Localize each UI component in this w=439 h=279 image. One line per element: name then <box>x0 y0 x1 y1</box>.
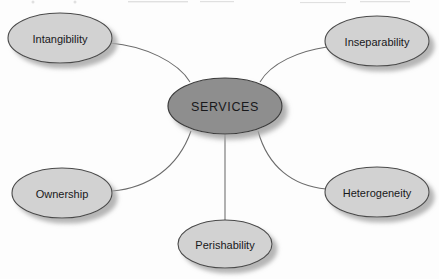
node-services-hub[interactable]: SERVICES <box>168 78 282 134</box>
node-heterogeneity[interactable]: Heterogeneity <box>325 167 429 217</box>
node-heterogeneity-label: Heterogeneity <box>343 187 412 199</box>
connector-inseparability <box>260 47 327 82</box>
node-intangibility-label: Intangibility <box>32 33 88 45</box>
connector-heterogeneity <box>258 131 326 189</box>
node-perishability-label: Perishability <box>195 239 255 251</box>
node-ownership[interactable]: Ownership <box>12 168 112 218</box>
connector-ownership <box>112 131 191 191</box>
node-inseparability-label: Inseparability <box>345 36 410 48</box>
node-perishability[interactable]: Perishability <box>178 220 272 268</box>
node-ownership-label: Ownership <box>36 188 89 200</box>
node-services-hub-label: SERVICES <box>191 100 259 114</box>
node-inseparability[interactable]: Inseparability <box>325 16 429 66</box>
connector-intangibility <box>110 43 190 82</box>
services-diagram: Intangibility Inseparability Ownership H… <box>0 0 439 279</box>
diagram-canvas: Intangibility Inseparability Ownership H… <box>0 0 439 279</box>
node-intangibility[interactable]: Intangibility <box>8 13 112 63</box>
